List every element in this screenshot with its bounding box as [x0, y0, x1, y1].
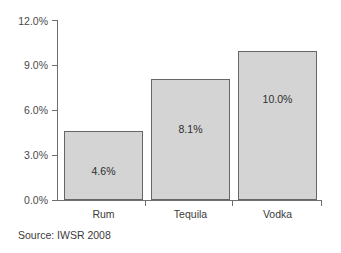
x-axis-tick-mark	[232, 201, 233, 206]
x-axis-line	[57, 200, 322, 201]
y-axis-tick-label: 3.0%	[0, 150, 48, 160]
source-note: Source: IWSR 2008	[18, 229, 111, 241]
bar-rum: 4.6%	[64, 131, 143, 200]
x-axis-category-label: Vodka	[238, 208, 317, 220]
bar-tequila: 8.1%	[151, 79, 230, 200]
bar-value-label: 8.1%	[152, 124, 229, 135]
bar-vodka: 10.0%	[238, 51, 317, 200]
x-axis-category-label: Tequila	[151, 208, 230, 220]
x-axis-category-label: Rum	[64, 208, 143, 220]
bar-value-label: 4.6%	[65, 166, 142, 177]
y-axis-tick-label: 12.0%	[0, 16, 48, 26]
y-axis-tick-label: 6.0%	[0, 105, 48, 115]
x-axis-tick-mark	[321, 201, 322, 206]
x-axis-tick-mark	[145, 201, 146, 206]
y-axis-tick-label: 9.0%	[0, 60, 48, 70]
bar-value-label: 10.0%	[239, 94, 316, 105]
bar-chart-figure: 12.0% 9.0% 6.0% 3.0% 0.0% 4.6% 8.1% 10.0…	[0, 0, 341, 253]
plot-area: 4.6% 8.1% 10.0%	[58, 21, 320, 200]
y-axis-tick-label: 0.0%	[0, 195, 48, 205]
